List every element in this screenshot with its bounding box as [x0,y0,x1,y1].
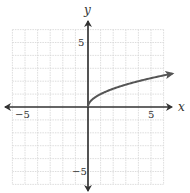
y-tick-label-neg5: −5 [72,166,87,177]
x-tick-label-5: 5 [148,109,154,120]
y-axis-label: y [83,3,91,17]
sqrt-function-graph: x y −5 5 5 −5 [0,0,190,193]
x-axis-label: x [178,100,185,114]
x-tick-label-neg5: −5 [15,109,30,120]
y-tick-label-5: 5 [78,37,84,48]
